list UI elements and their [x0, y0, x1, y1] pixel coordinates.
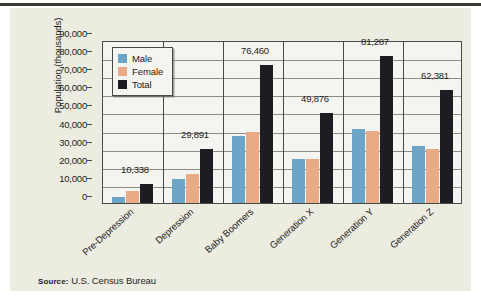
y-tick-mark [87, 160, 92, 161]
chart-figure: Population (thousands) 90,00080,00070,00… [0, 0, 481, 308]
y-tick-label: 60,000 [35, 82, 87, 93]
y-tick-mark [87, 87, 92, 88]
legend-item: Total [118, 78, 163, 91]
data-value-label: 10,338 [121, 164, 149, 175]
y-tick-mark [87, 105, 92, 106]
x-tick-label: Baby Boomers [203, 206, 256, 255]
bar-total [140, 184, 153, 203]
bar-total [200, 149, 213, 203]
y-tick-mark [87, 142, 92, 143]
bar-total [440, 90, 453, 203]
x-tick-label: Pre-Depression [80, 206, 135, 257]
bar-male [352, 129, 365, 203]
bar-female [246, 132, 259, 203]
bar-female [366, 131, 379, 203]
bar-male [292, 159, 305, 203]
x-tick-label: Generation Z [388, 206, 436, 250]
x-tick-label: Generation Y [327, 206, 375, 251]
gridline-horizontal [103, 151, 461, 152]
y-tick-mark [87, 51, 92, 52]
legend-label: Total [132, 79, 152, 90]
bar-female [426, 149, 439, 203]
bar-total [320, 113, 333, 203]
bar-total [260, 65, 273, 203]
chart-legend: MaleFemaleTotal [112, 47, 173, 96]
category-separator [283, 42, 284, 203]
data-value-label: 81,287 [361, 36, 389, 47]
gridline-horizontal [103, 114, 461, 115]
bar-male [232, 136, 245, 203]
bar-male [172, 179, 185, 203]
category-separator [223, 42, 224, 203]
y-tick-label: 70,000 [35, 64, 87, 75]
category-separator [403, 42, 404, 203]
x-tick-label: Depression [153, 206, 195, 246]
gridline-horizontal [103, 187, 461, 188]
y-tick-label: 40,000 [35, 118, 87, 129]
legend-label: Female [132, 66, 163, 77]
source-text: U.S. Census Bureau [71, 275, 156, 286]
legend-swatch-total [118, 80, 127, 89]
bar-female [126, 191, 139, 203]
legend-label: Male [132, 53, 152, 64]
gridline-horizontal [103, 96, 461, 97]
legend-item: Male [118, 52, 163, 65]
data-value-label: 76,460 [241, 45, 269, 56]
y-tick-mark [87, 33, 92, 34]
y-tick-label: 10,000 [35, 172, 87, 183]
gridline-horizontal [103, 169, 461, 170]
y-tick-label: 30,000 [35, 136, 87, 147]
bar-female [306, 159, 319, 203]
y-tick-label: 80,000 [35, 46, 87, 57]
legend-item: Female [118, 65, 163, 78]
legend-swatch-male [118, 54, 127, 63]
y-tick-label: 90,000 [35, 28, 87, 39]
y-tick-mark [87, 196, 92, 197]
bar-total [380, 56, 393, 203]
legend-swatch-female [118, 67, 127, 76]
bar-male [412, 146, 425, 203]
y-tick-mark [87, 124, 92, 125]
y-tick-label: 50,000 [35, 100, 87, 111]
x-tick-label: Generation X [267, 206, 315, 251]
gridline-horizontal [103, 133, 461, 134]
data-value-label: 49,876 [301, 93, 329, 104]
data-value-label: 29,891 [181, 129, 209, 140]
y-tick-label: 0 [35, 191, 87, 202]
data-value-label: 62,381 [421, 70, 449, 81]
source-label: Source: [38, 277, 69, 286]
y-tick-label: 20,000 [35, 154, 87, 165]
source-line: Source: U.S. Census Bureau [38, 275, 156, 286]
chart-panel: Population (thousands) 90,00080,00070,00… [10, 8, 471, 291]
top-divider-rule [0, 3, 481, 6]
y-tick-mark [87, 178, 92, 179]
y-tick-mark [87, 69, 92, 70]
bar-male [112, 197, 125, 203]
category-separator [343, 42, 344, 203]
bar-female [186, 174, 199, 203]
